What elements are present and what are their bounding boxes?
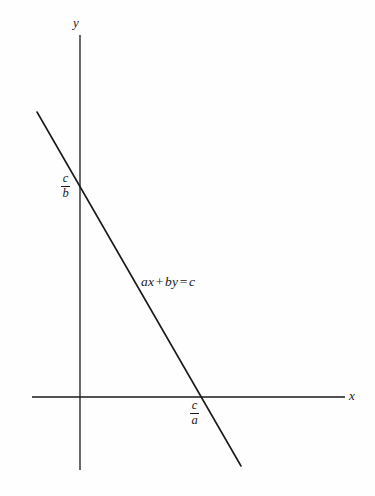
x-axis-label: x: [349, 389, 355, 402]
x-intercept-label: c a: [190, 399, 199, 427]
graph-canvas: [0, 0, 375, 496]
line-graph-figure: y x ax+by=c c b c a: [0, 0, 375, 496]
equation-operator-equals: =: [178, 274, 189, 289]
equation-label: ax+by=c: [141, 275, 195, 289]
equation-term-2: by: [165, 274, 178, 289]
equation-term-3: c: [189, 274, 195, 289]
y-axis-label: y: [73, 16, 79, 29]
equation-line: [37, 112, 241, 466]
x-intercept-numerator: c: [191, 399, 199, 413]
y-intercept-denominator: b: [61, 187, 69, 201]
y-intercept-numerator: c: [62, 172, 70, 186]
equation-operator-plus: +: [154, 274, 165, 289]
y-intercept-label: c b: [61, 172, 70, 200]
equation-term-1: ax: [141, 274, 154, 289]
x-intercept-denominator: a: [190, 414, 198, 428]
